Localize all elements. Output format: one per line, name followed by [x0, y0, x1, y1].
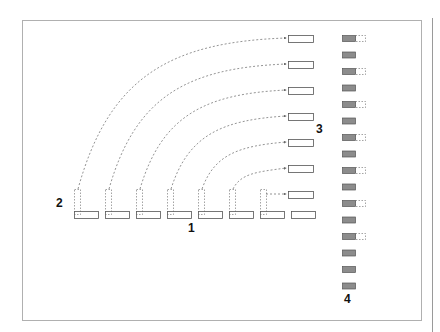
dashed-extension [356, 234, 366, 240]
dashed-arrows [78, 38, 286, 194]
bottom-box [137, 212, 161, 219]
target-box [289, 192, 314, 199]
dashed-extension [356, 69, 366, 75]
grey-column-boxes [343, 36, 366, 290]
target-box [289, 62, 314, 69]
dashed-extension [356, 135, 366, 141]
grey-block [343, 234, 356, 240]
grey-block [343, 118, 356, 124]
dotted-stub [106, 190, 112, 215]
dotted-stub [199, 190, 205, 215]
target-box [289, 114, 314, 121]
grey-block [343, 102, 356, 108]
grey-block [343, 267, 356, 273]
dashed-arrow [233, 168, 286, 189]
dotted-stub [230, 190, 236, 215]
grey-block [343, 168, 356, 174]
grey-block [343, 184, 356, 190]
grey-block [343, 36, 356, 42]
target-box [289, 36, 314, 43]
bottom-row-boxes [75, 212, 316, 219]
grey-block [343, 283, 356, 289]
target-box [289, 166, 314, 173]
grey-block [343, 135, 356, 141]
dotted-stub [75, 190, 81, 215]
dashed-arrow [171, 116, 286, 189]
bottom-box [292, 212, 316, 219]
bottom-box [230, 212, 254, 219]
label-1: 1 [188, 221, 195, 235]
diagram-canvas [0, 0, 440, 332]
dotted-stub [137, 190, 143, 215]
bottom-box [261, 212, 285, 219]
dashed-extension [356, 168, 366, 174]
right-column-boxes [289, 36, 314, 199]
grey-block [343, 85, 356, 91]
grey-block [343, 217, 356, 223]
target-box [289, 88, 314, 95]
dashed-arrow [202, 142, 286, 189]
grey-block [343, 201, 356, 207]
grey-block [343, 250, 356, 256]
dashed-extension [356, 102, 366, 108]
bottom-box [199, 212, 223, 219]
bottom-box [168, 212, 192, 219]
dashed-arrow [78, 38, 286, 189]
label-2: 2 [56, 196, 63, 210]
label-3: 3 [316, 122, 323, 136]
dashed-extension [356, 36, 366, 42]
label-4: 4 [344, 292, 351, 306]
dashed-arrow [140, 90, 286, 189]
dashed-extension [356, 201, 366, 207]
dotted-stub [261, 190, 267, 215]
bottom-box [106, 212, 130, 219]
grey-block [343, 69, 356, 75]
grey-block [343, 151, 356, 157]
dotted-column-stubs [75, 190, 267, 215]
bottom-box [75, 212, 99, 219]
dotted-stub [168, 190, 174, 215]
grey-block [343, 52, 356, 58]
target-box [289, 140, 314, 147]
dashed-arrow [109, 64, 286, 189]
frame [23, 21, 422, 321]
